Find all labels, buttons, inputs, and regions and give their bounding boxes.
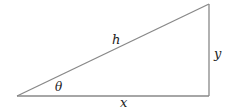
triangle xyxy=(17,4,209,96)
angle-label: θ xyxy=(55,80,63,94)
right-triangle-diagram: h y x θ xyxy=(0,0,236,108)
hypotenuse-label: h xyxy=(112,32,120,47)
adjacent-label: x xyxy=(120,95,128,108)
hypotenuse-side xyxy=(17,4,209,96)
opposite-label: y xyxy=(213,46,222,61)
